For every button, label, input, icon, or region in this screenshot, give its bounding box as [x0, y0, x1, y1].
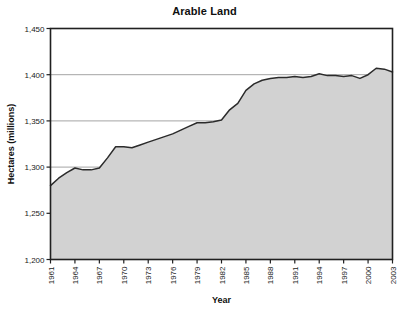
x-axis-tick-label: 1970: [120, 266, 129, 284]
x-axis-tick-label: 1976: [169, 266, 178, 284]
x-axis-tick-label: 1967: [95, 266, 104, 284]
x-axis-tick-label: 1997: [340, 266, 349, 284]
x-axis-tick-label: 1961: [47, 266, 56, 284]
y-axis-tick-label: 1,250: [24, 209, 45, 218]
x-axis: 1961196419671970197319761979198219851988…: [47, 260, 398, 285]
x-axis-tick-label: 1985: [242, 266, 251, 284]
x-axis-tick-label: 1964: [71, 266, 80, 284]
y-axis: 1,4501,4001,3501,3001,2501,200: [24, 25, 50, 265]
y-axis-tick-label: 1,300: [24, 163, 45, 172]
y-axis-tick-label: 1,450: [24, 25, 45, 34]
x-axis-tick-label: 1988: [266, 266, 275, 284]
y-axis-tick-label: 1,200: [24, 256, 45, 265]
x-axis-tick-label: 1991: [291, 266, 300, 284]
y-axis-title: Hectares (millions): [6, 104, 16, 185]
x-axis-tick-label: 1973: [144, 266, 153, 284]
x-axis-tick-label: 2003: [389, 266, 398, 284]
x-axis-title: Year: [212, 295, 232, 305]
chart-plot-area: 1,4501,4001,3501,3001,2501,2001961196419…: [0, 0, 409, 312]
arable-land-chart: Arable Land 1,4501,4001,3501,3001,2501,2…: [0, 0, 409, 312]
x-axis-tick-label: 1979: [193, 266, 202, 284]
x-axis-tick-label: 1982: [218, 266, 227, 284]
y-axis-tick-label: 1,350: [24, 117, 45, 126]
x-axis-tick-label: 2000: [364, 266, 373, 284]
x-axis-tick-label: 1994: [315, 266, 324, 284]
y-axis-tick-label: 1,400: [24, 71, 45, 80]
